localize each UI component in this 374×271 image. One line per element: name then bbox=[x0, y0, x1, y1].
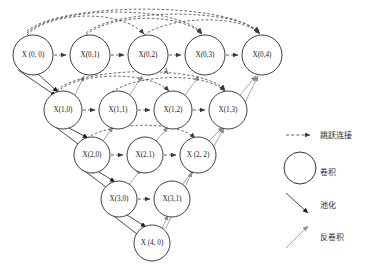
node-x30[interactable]: X(3,0) bbox=[101, 181, 137, 217]
deconv-edge-x10-x01 bbox=[75, 76, 84, 95]
down-right-arrow-icon bbox=[286, 193, 308, 213]
pool-edge-x00-x10 bbox=[38, 74, 58, 92]
pool-edge-x20-x30 bbox=[99, 172, 115, 182]
legend-label-skip: 跳跃连接 bbox=[320, 130, 352, 140]
legend-item-skip: 跳跃连接 bbox=[286, 130, 352, 140]
node-label: X(1,1) bbox=[109, 106, 129, 114]
pool-edge-x30-x40 bbox=[127, 215, 146, 227]
node-x31[interactable]: X(3,1) bbox=[154, 181, 190, 217]
deconv-edge-x11-x02 bbox=[130, 76, 142, 95]
node-x10[interactable]: X(1,0) bbox=[44, 91, 82, 129]
node-label: X(1,2) bbox=[164, 106, 184, 114]
skip-arc-x10-x12 bbox=[57, 76, 169, 92]
node-label: X (2, 2) bbox=[187, 151, 210, 159]
pool-edge-x10-x20 bbox=[69, 128, 88, 138]
legend-label-conv: 卷积 bbox=[320, 167, 336, 177]
deconv-edge-x40-x31 bbox=[162, 215, 168, 229]
node-x00[interactable]: X (0, 0) bbox=[13, 35, 53, 75]
node-label: X(0,1) bbox=[81, 51, 101, 59]
skip-arc-x02-x04 bbox=[144, 20, 260, 35]
deconv-edge-x12-x03 bbox=[185, 76, 199, 95]
legend: 跳跃连接 卷积 池化 反卷积 bbox=[284, 130, 352, 248]
legend-item-conv: 卷积 bbox=[284, 152, 336, 184]
node-x03[interactable]: X(0,3) bbox=[185, 35, 225, 75]
skip-edges-horizontal bbox=[54, 55, 238, 199]
node-x20[interactable]: X(2,0) bbox=[74, 137, 110, 173]
node-x01[interactable]: X(0,1) bbox=[70, 35, 110, 75]
unet-plus-plus-diagram: X (0, 0) X(0,1) X(0,2) X(0,3) X(0,4) X(1… bbox=[0, 0, 374, 271]
node-x02[interactable]: X(0,2) bbox=[128, 35, 168, 75]
node-label: X(0,4) bbox=[253, 51, 273, 59]
node-label: X(1,0) bbox=[54, 106, 74, 114]
skip-arc-x00-x02 bbox=[27, 16, 144, 35]
legend-label-deconv: 反卷积 bbox=[320, 232, 344, 242]
node-label: X(3,0) bbox=[110, 195, 130, 203]
legend-item-deconv: 反卷积 bbox=[286, 226, 344, 248]
legend-item-pool: 池化 bbox=[286, 193, 336, 213]
deconv-edge-x21-x12 bbox=[156, 127, 168, 141]
node-x22[interactable]: X (2, 2) bbox=[180, 137, 216, 173]
legend-label-pool: 池化 bbox=[320, 200, 336, 210]
node-x21[interactable]: X(2,1) bbox=[127, 137, 163, 173]
circle-icon bbox=[284, 152, 316, 184]
node-label: X (0, 0) bbox=[22, 51, 45, 59]
up-right-arrow-icon bbox=[286, 226, 308, 248]
node-label: X (4, 0) bbox=[141, 239, 164, 247]
node-label: X(0,3) bbox=[196, 51, 216, 59]
node-x40[interactable]: X (4, 0) bbox=[134, 225, 170, 261]
annotation-marker-a: A bbox=[163, 67, 169, 76]
node-label: X(3,1) bbox=[163, 195, 183, 203]
skip-arc-x11-x13 bbox=[112, 78, 225, 92]
skip-arcs-row0 bbox=[27, 9, 260, 35]
node-label: X(2,1) bbox=[136, 151, 156, 159]
node-label: X(2,0) bbox=[83, 151, 103, 159]
node-x12[interactable]: X(1,2) bbox=[154, 91, 192, 129]
node-x13[interactable]: X(1,3) bbox=[209, 91, 247, 129]
node-group: X (0, 0) X(0,1) X(0,2) X(0,3) X(0,4) X(1… bbox=[13, 35, 282, 261]
node-x11[interactable]: X(1,1) bbox=[99, 91, 137, 129]
skip-arc-x01-x03 bbox=[86, 18, 202, 35]
node-x04[interactable]: X(0,4) bbox=[242, 35, 282, 75]
node-label: X(1,3) bbox=[219, 106, 239, 114]
skip-arc-x01-x04 bbox=[86, 14, 259, 33]
node-label: X(0,2) bbox=[139, 51, 159, 59]
